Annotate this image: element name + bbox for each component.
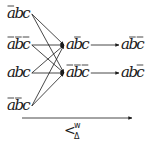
node-letter: c bbox=[22, 4, 31, 22]
edge-arrow bbox=[32, 14, 64, 45]
node-letter: c bbox=[136, 63, 145, 81]
node-n4: abc bbox=[7, 96, 31, 114]
node-letter: c bbox=[81, 35, 90, 53]
node-m1: abc bbox=[66, 35, 90, 53]
node-m2: abc bbox=[66, 63, 90, 81]
node-letter: c bbox=[22, 63, 31, 81]
order-diagram: abcabcabcabcabcabcabcabc < w Δ bbox=[0, 0, 148, 144]
nodes: abcabcabcabcabcabcabcabc bbox=[7, 4, 145, 114]
node-letter: c bbox=[22, 96, 31, 114]
node-letter: c bbox=[22, 35, 31, 53]
node-letter: c bbox=[136, 35, 145, 53]
node-r1: abc bbox=[121, 35, 145, 53]
node-n3: abc bbox=[7, 63, 31, 81]
node-n2: abc bbox=[7, 35, 31, 53]
node-letter: c bbox=[81, 63, 90, 81]
edge-arrow bbox=[32, 73, 64, 106]
node-n1: abc bbox=[7, 4, 31, 22]
edges bbox=[32, 14, 119, 106]
relation-subscript: Δ bbox=[74, 132, 80, 141]
edge-arrow bbox=[32, 14, 64, 73]
relation-superscript: w bbox=[74, 121, 81, 130]
edge-arrow bbox=[32, 45, 64, 106]
node-r2: abc bbox=[121, 63, 145, 81]
